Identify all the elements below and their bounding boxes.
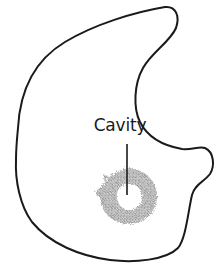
cavity-label: Cavity	[80, 115, 160, 135]
cavity-lesion	[100, 168, 157, 224]
diagram-canvas: Cavity	[0, 0, 222, 268]
